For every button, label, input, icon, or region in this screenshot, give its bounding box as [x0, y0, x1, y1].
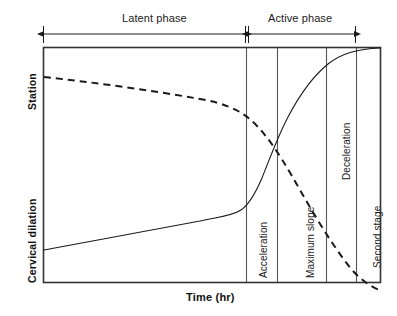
phase-bracket-latent	[44, 26, 246, 43]
y-axis-title-cervical-dilation: Cervical dilation	[26, 198, 38, 283]
region-label-deceleration: Deceleration	[341, 123, 352, 180]
curve-station	[44, 77, 379, 290]
phase-label-active: Active phase	[268, 12, 332, 24]
region-label-second-stage: Second stage	[372, 206, 383, 268]
region-label-maximum-slope: Maximum slope	[305, 207, 316, 278]
region-label-acceleration: Acceleration	[258, 222, 269, 278]
phase-bracket-active	[249, 26, 356, 43]
chart-canvas	[0, 0, 397, 316]
y-axis-title-station: Station	[26, 73, 38, 110]
x-axis-title-time: Time (hr)	[186, 291, 235, 303]
curve-cervical-dilation	[44, 48, 380, 250]
friedman-curve-figure: Latent phase Active phase Station Cervic…	[0, 0, 397, 316]
plot-frame	[44, 48, 381, 283]
phase-label-latent: Latent phase	[122, 12, 187, 24]
